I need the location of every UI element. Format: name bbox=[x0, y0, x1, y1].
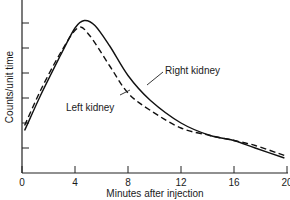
x-tick-label: 16 bbox=[228, 177, 240, 188]
left-kidney-line bbox=[25, 27, 285, 155]
right-kidney-leader bbox=[147, 72, 163, 85]
right-kidney-line bbox=[25, 20, 285, 158]
x-tick-label: 4 bbox=[72, 177, 78, 188]
left-kidney-leader bbox=[120, 90, 130, 95]
renogram-chart: 048121620 Right kidney Left kidney Minut… bbox=[0, 0, 290, 200]
x-tick-label: 8 bbox=[125, 177, 131, 188]
x-ticks: 048121620 bbox=[19, 166, 290, 188]
x-tick-label: 20 bbox=[281, 177, 290, 188]
right-kidney-label: Right kidney bbox=[165, 65, 220, 76]
axes: 048121620 bbox=[19, 0, 290, 188]
x-tick-label: 0 bbox=[19, 177, 25, 188]
y-axis-label: Counts/unit time bbox=[4, 50, 15, 123]
left-kidney-label: Left kidney bbox=[66, 102, 114, 113]
x-tick-label: 12 bbox=[175, 177, 187, 188]
x-axis-label: Minutes after injection bbox=[106, 188, 203, 199]
